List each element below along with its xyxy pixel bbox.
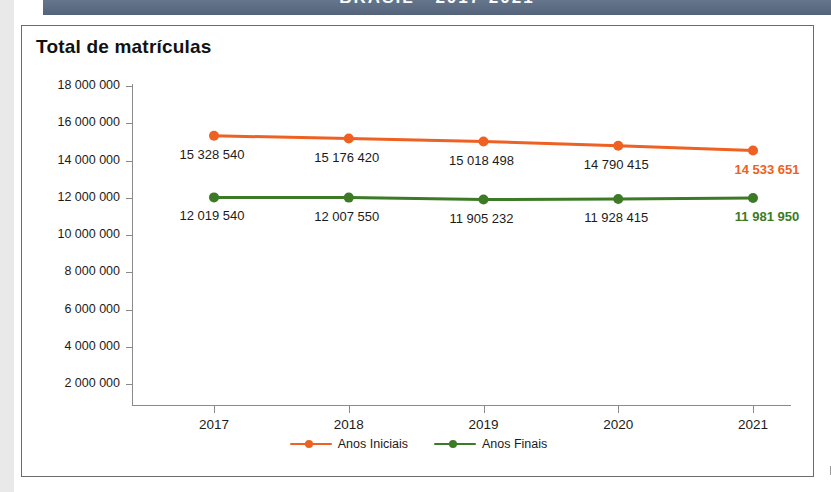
x-axis-tick-label: 2021 <box>713 417 793 432</box>
data-point-marker <box>479 137 489 147</box>
y-axis-tick <box>126 198 133 199</box>
x-axis-tick <box>618 406 619 413</box>
data-point-label: 11 928 415 <box>584 210 648 225</box>
y-axis-tick <box>126 310 133 311</box>
data-point-marker <box>613 141 623 151</box>
y-axis-tick-label: 16 000 000 <box>24 115 120 129</box>
x-axis-tick <box>349 406 350 413</box>
legend-item-anos-finais: Anos Finais <box>434 437 547 451</box>
y-axis-tick <box>126 347 133 348</box>
data-point-marker <box>209 192 219 202</box>
x-axis-tick-label: 2019 <box>444 417 524 432</box>
x-axis-tick-label: 2020 <box>578 417 658 432</box>
x-axis-tick <box>753 406 754 413</box>
data-point-marker <box>344 134 354 144</box>
y-axis-tick <box>126 161 133 162</box>
data-point-marker <box>209 131 219 141</box>
page-left-edge <box>0 0 14 492</box>
y-axis-tick <box>126 235 133 236</box>
data-point-label: 11 981 950 <box>735 209 799 224</box>
y-axis-tick-label: 12 000 000 <box>24 190 120 204</box>
figure-container: Total de matrículas 2 000 0004 000 0006 … <box>21 25 814 477</box>
legend-marker-icon <box>290 438 332 450</box>
x-axis-tick-label: 2017 <box>174 417 254 432</box>
data-point-label: 15 018 498 <box>449 153 514 168</box>
data-point-marker <box>613 194 623 204</box>
y-axis-tick-label: 2 000 000 <box>24 376 120 390</box>
y-axis-tick-label: 4 000 000 <box>24 339 120 353</box>
data-point-label: 14 790 415 <box>584 157 649 172</box>
x-axis-tick <box>484 406 485 413</box>
y-axis-tick <box>126 86 133 87</box>
y-axis-tick-label: 14 000 000 <box>24 153 120 167</box>
y-axis-tick <box>126 272 133 273</box>
legend-marker-icon <box>434 438 476 450</box>
legend-item-anos-iniciais: Anos Iniciais <box>290 437 408 451</box>
data-point-label: 15 328 540 <box>179 147 244 162</box>
y-axis-tick-label: 18 000 000 <box>24 78 120 92</box>
data-point-marker <box>748 146 758 156</box>
data-point-label: 14 533 651 <box>734 162 799 177</box>
y-axis-tick <box>126 384 133 385</box>
y-axis-tick-label: 8 000 000 <box>24 264 120 278</box>
x-axis-tick-label: 2018 <box>309 417 389 432</box>
banner-shading <box>43 0 831 15</box>
legend-label: Anos Finais <box>482 437 547 451</box>
data-point-label: 11 905 232 <box>449 211 513 226</box>
y-axis-tick-label: 10 000 000 <box>24 227 120 241</box>
series-lines <box>22 26 815 478</box>
y-axis-tick <box>126 123 133 124</box>
data-point-label: 15 176 420 <box>314 150 379 165</box>
legend-label: Anos Iniciais <box>338 437 408 451</box>
data-point-label: 12 019 540 <box>179 208 244 223</box>
data-point-label: 12 007 550 <box>314 209 379 224</box>
chart-legend: Anos Iniciais Anos Finais <box>22 437 815 451</box>
y-axis-tick-label: 6 000 000 <box>24 302 120 316</box>
chart-screenshot: { "banner": { "text": "BRASIL - 2017-202… <box>0 0 831 492</box>
data-point-marker <box>344 193 354 203</box>
page-banner: BRASIL - 2017-2021 <box>43 0 831 15</box>
data-point-marker <box>479 195 489 205</box>
line-chart-plot: 2 000 0004 000 0006 000 0008 000 00010 0… <box>22 26 815 478</box>
data-point-marker <box>748 193 758 203</box>
x-axis-tick <box>214 406 215 413</box>
